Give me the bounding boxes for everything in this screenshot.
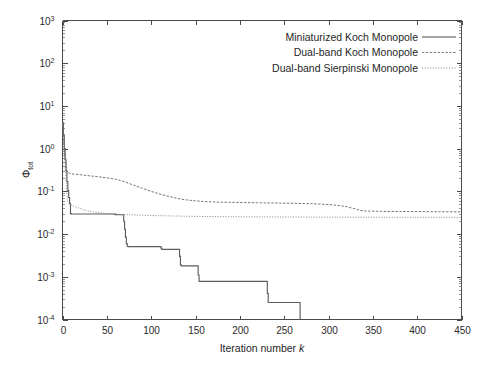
y-tick-label: 10-1 bbox=[37, 185, 54, 197]
legend-label-2: Dual-band Sierpinski Monopole bbox=[272, 62, 418, 74]
x-tick-label: 200 bbox=[232, 325, 249, 336]
x-tick-label: 0 bbox=[61, 325, 67, 336]
x-tick-label: 100 bbox=[143, 325, 160, 336]
x-tick-labels: 050100150200250300350400450 bbox=[61, 325, 472, 336]
x-tick-label: 350 bbox=[365, 325, 382, 336]
figure-container: 050100150200250300350400450 10-410-310-2… bbox=[0, 0, 484, 369]
y-tick-labels: 10-410-310-210-1100101102103 bbox=[37, 15, 54, 326]
series-line-0 bbox=[63, 123, 301, 320]
legend-label-1: Dual-band Koch Monopole bbox=[294, 46, 418, 58]
legend-label-0: Miniaturized Koch Monopole bbox=[286, 31, 419, 43]
x-tick-label: 450 bbox=[454, 325, 471, 336]
y-tick-label: 100 bbox=[39, 143, 54, 155]
x-tick-label: 250 bbox=[276, 325, 293, 336]
x-axis-title: Iteration numberk bbox=[220, 342, 305, 354]
data-series-group bbox=[63, 123, 462, 320]
y-tick-label: 101 bbox=[39, 100, 54, 112]
convergence-chart: 050100150200250300350400450 10-410-310-2… bbox=[0, 0, 484, 369]
y-tick-label: 102 bbox=[39, 57, 54, 69]
legend: Miniaturized Koch MonopoleDual-band Koch… bbox=[272, 31, 456, 74]
y-tick-label: 10-3 bbox=[37, 271, 54, 283]
y-tick-label: 103 bbox=[39, 15, 54, 27]
y-tick-label: 10-2 bbox=[37, 228, 54, 240]
y-tick-label: 10-4 bbox=[37, 314, 54, 326]
y-axis-title: Φtot bbox=[20, 162, 34, 178]
x-tick-label: 300 bbox=[321, 325, 338, 336]
x-tick-label: 50 bbox=[102, 325, 114, 336]
series-line-1 bbox=[63, 123, 462, 212]
x-tick-label: 150 bbox=[188, 325, 205, 336]
x-tick-label: 400 bbox=[409, 325, 426, 336]
